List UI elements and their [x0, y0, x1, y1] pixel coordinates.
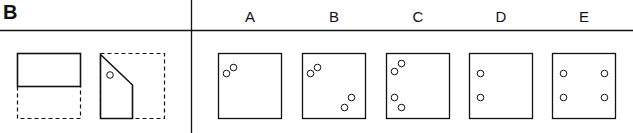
answer-option-d	[470, 54, 533, 119]
answer-option-b	[303, 54, 366, 119]
fold-step-1	[18, 54, 81, 119]
answer-option-e	[553, 54, 616, 119]
diagram-canvas	[0, 0, 633, 133]
fold-step-2	[101, 54, 165, 119]
answer-option-a	[219, 54, 282, 119]
answer-option-c	[387, 54, 450, 119]
